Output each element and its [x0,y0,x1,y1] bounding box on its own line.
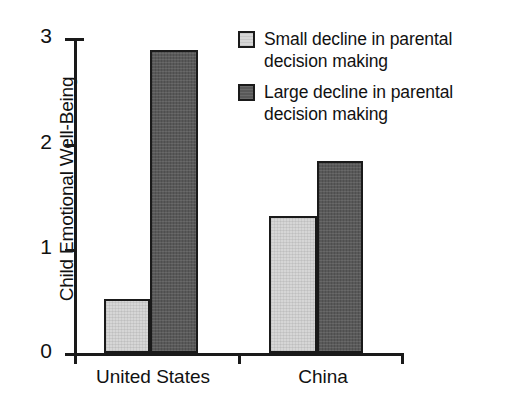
y-tick-label-0: 0 [40,340,52,361]
y-tick-label-2: 2 [40,131,52,152]
bar-china-large-decline [317,161,363,353]
y-tick-label-1: 1 [40,236,52,257]
y-tick-3: 3 [65,38,77,41]
x-tick-origin [74,353,77,364]
legend-item-small-decline: Small decline in parental decision makin… [238,28,504,72]
bar-chart-figure: Child Emotional Well-Being 3 2 1 0 Unite… [0,0,507,400]
legend-swatch-dark-gray-icon [238,84,255,101]
x-tick-group-divider [238,353,241,364]
legend-swatch-light-gray-icon [238,31,255,48]
bar-united-states-small-decline [104,299,150,353]
y-tick-2: 2 [65,144,77,147]
legend-label-small-decline-line2: decision making [264,51,388,71]
x-category-label-china: China [268,366,378,388]
legend: Small decline in parental decision makin… [238,28,504,134]
y-axis-line [74,38,77,356]
x-axis-right-cap [401,353,404,364]
legend-label-large-decline-line1: Large decline in parental [264,82,453,102]
legend-label-large-decline: Large decline in parental decision makin… [264,81,453,125]
legend-item-large-decline: Large decline in parental decision makin… [238,81,504,125]
bar-china-small-decline [269,216,317,353]
x-category-label-united-states: United States [78,366,228,388]
bar-united-states-large-decline [150,50,198,353]
y-tick-label-3: 3 [40,25,52,46]
legend-label-small-decline: Small decline in parental decision makin… [264,28,452,72]
legend-label-small-decline-line1: Small decline in parental [264,29,452,49]
legend-label-large-decline-line2: decision making [264,104,388,124]
y-tick-1: 1 [65,249,77,252]
